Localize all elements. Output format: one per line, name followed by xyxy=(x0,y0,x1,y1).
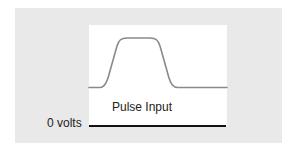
pulse-waveform xyxy=(89,38,227,88)
zero-volts-label: 0 volts xyxy=(47,116,82,130)
pulse-input-label: Pulse Input xyxy=(112,100,172,114)
pulse-diagram xyxy=(0,0,297,150)
